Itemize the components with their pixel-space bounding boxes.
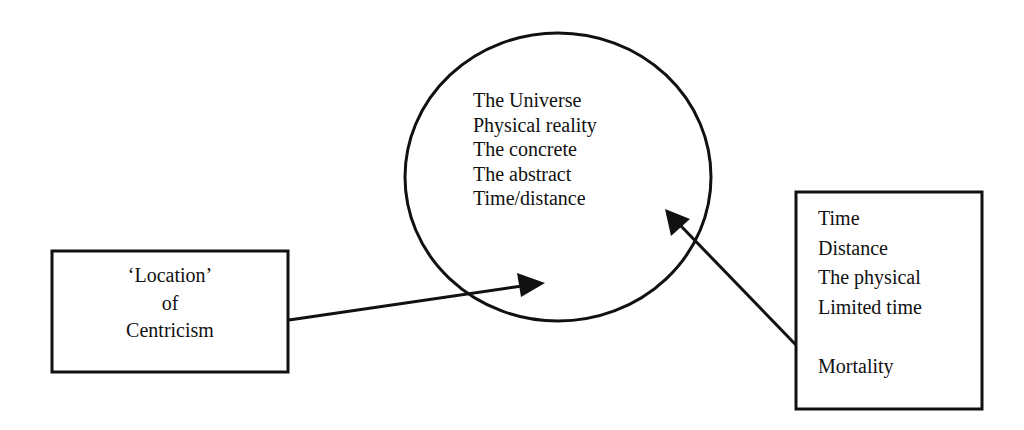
- circle-line: Time/distance: [473, 186, 597, 211]
- right-box-text: Time Distance The physical Limited time …: [818, 204, 922, 381]
- circle-line: The abstract: [473, 162, 597, 187]
- left-box-text: ‘Location’ of Centricism: [52, 262, 288, 345]
- right-box-spacer: [818, 322, 922, 352]
- circle-text: The Universe Physical reality The concre…: [473, 88, 597, 211]
- circle-line: The concrete: [473, 137, 597, 162]
- right-box-line: Time: [818, 204, 922, 234]
- circle-line: Physical reality: [473, 113, 597, 138]
- circle-line: The Universe: [473, 88, 597, 113]
- left-box-line: Centricism: [52, 317, 288, 345]
- left-box-line: ‘Location’: [52, 262, 288, 290]
- right-box-line: The physical: [818, 263, 922, 293]
- right-box-line: Mortality: [818, 352, 922, 382]
- left-box-line: of: [52, 290, 288, 318]
- right-box-line: Limited time: [818, 293, 922, 323]
- arrow-right-to-circle-shaft: [680, 225, 796, 345]
- arrow-left-to-circle-head: [517, 273, 545, 297]
- right-box-line: Distance: [818, 234, 922, 264]
